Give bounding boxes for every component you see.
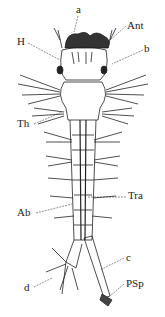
label-h: H — [17, 36, 25, 47]
head-capsule — [61, 47, 107, 80]
larva-drawing — [0, 0, 165, 317]
label-th: Th — [17, 118, 29, 129]
thorax — [60, 82, 105, 120]
label-a: a — [76, 4, 81, 15]
label-c: c — [126, 252, 131, 263]
anal-segment — [66, 240, 82, 268]
label-ant: Ant — [127, 20, 144, 31]
label-d: d — [24, 282, 30, 293]
label-b: b — [144, 43, 150, 54]
siphon — [84, 236, 110, 298]
anal-gills — [46, 248, 78, 294]
mouth-brush — [65, 32, 109, 48]
left-eye — [57, 66, 63, 74]
label-tra: Tra — [128, 190, 143, 201]
label-ab: Ab — [17, 207, 30, 218]
mosquito-larva-diagram: a Ant H b Th Tra Ab c d PSp — [0, 0, 165, 317]
right-eye — [101, 66, 107, 74]
label-psp: PSp — [126, 278, 144, 289]
